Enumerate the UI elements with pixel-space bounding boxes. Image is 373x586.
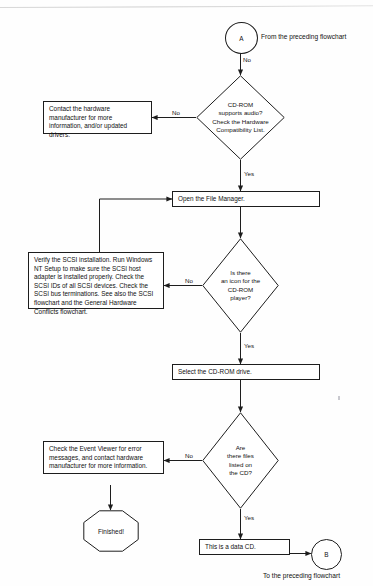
process-select-cdrom-drive-text: Select the CD-ROM drive. — [178, 368, 252, 377]
edge-label-files-no: No — [185, 452, 193, 459]
process-contact-manufacturer-text: Contact the hardware manufacturer for mo… — [49, 105, 127, 138]
flowchart-page: A From the preceding flowchart No CD-ROM… — [0, 0, 373, 586]
process-data-cd-text: This is a data CD. — [205, 543, 256, 552]
process-open-file-manager-text: Open the File Manager. — [178, 195, 245, 204]
process-check-event-viewer: Check the Event Viewer for error message… — [43, 441, 164, 474]
edge-label-icon-no: No — [185, 277, 193, 284]
edge-label-entry-no: No — [243, 56, 251, 63]
connector-exit-b: B — [311, 539, 342, 570]
connector-exit-b-label: B — [324, 551, 328, 558]
edge-label-icon-yes: Yes — [244, 342, 254, 349]
edge-label-audio-yes: Yes — [244, 170, 254, 177]
diamond-shape — [196, 75, 285, 160]
connector-entry-a-label: A — [239, 35, 243, 42]
process-verify-scsi: Verify the SCSI installation. Run Window… — [28, 252, 164, 309]
diamond-shape — [202, 412, 279, 509]
process-contact-manufacturer: Contact the hardware manufacturer for mo… — [43, 101, 152, 134]
process-data-cd: This is a data CD. — [199, 539, 290, 555]
octagon-shape — [83, 510, 139, 552]
process-open-file-manager: Open the File Manager. — [172, 191, 320, 207]
edge-label-audio-no: No — [172, 109, 180, 116]
terminal-finished: Finished! — [83, 510, 139, 552]
caption-to-preceding-flowchart: To the preceding flowchart — [263, 572, 340, 579]
connector-entry-a: A — [225, 22, 258, 54]
decision-cdrom-supports-audio: CD-ROM supports audio? Check the Hardwar… — [196, 75, 285, 160]
process-check-event-viewer-text: Check the Event Viewer for error message… — [49, 445, 147, 469]
caption-from-preceding-flowchart: From the preceding flowchart — [261, 33, 346, 40]
decision-files-listed: Are there files listed on the CD? — [202, 412, 279, 509]
decision-icon-present: Is there an icon for the CD-ROM player? — [202, 238, 279, 333]
process-verify-scsi-text: Verify the SCSI installation. Run Window… — [34, 256, 153, 315]
edge-label-files-yes: Yes — [244, 514, 254, 521]
process-select-cdrom-drive: Select the CD-ROM drive. — [172, 364, 320, 380]
diamond-shape — [202, 238, 279, 333]
